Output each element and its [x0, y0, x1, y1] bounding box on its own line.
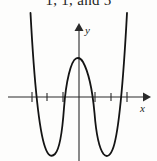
x-axis-label: x — [139, 102, 145, 114]
y-axis-label: y — [84, 24, 90, 36]
polynomial-graph-figure: x y — [0, 9, 157, 161]
y-axis-arrowhead — [75, 23, 84, 31]
clipped-caption-text: 1, 1, and 5 — [0, 0, 157, 9]
x-axis-arrowhead — [143, 93, 151, 102]
figure-screenshot: 1, 1, and 5 x y — [0, 0, 157, 161]
